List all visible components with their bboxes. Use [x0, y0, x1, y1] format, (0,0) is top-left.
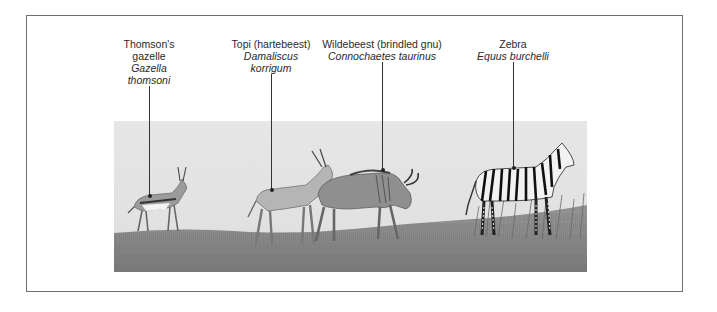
scientific-name: thomsoni [123, 74, 174, 86]
common-name: Zebra [477, 38, 549, 50]
scientific-name: korrigum [232, 62, 311, 74]
label-wildebeest: Wildebeest (brindled gnu) Connochaetes t… [322, 38, 442, 62]
scene-illustration [114, 121, 587, 272]
scientific-name: Equus burchelli [477, 50, 549, 62]
leader-line-thomsons-gazelle [149, 86, 150, 196]
thomsons-gazelle-illustration [128, 167, 187, 231]
leader-line-zebra [513, 62, 514, 168]
savanna-scene [114, 121, 587, 272]
scientific-name: Connochaetes taurinus [322, 50, 442, 62]
label-thomsons-gazelle: Thomson's gazelle Gazella thomsoni [123, 38, 174, 86]
scientific-name: Damaliscus [232, 50, 311, 62]
common-name: Wildebeest (brindled gnu) [322, 38, 442, 50]
common-name: gazelle [123, 50, 174, 62]
label-topi: Topi (hartebeest) Damaliscus korrigum [232, 38, 311, 74]
common-name: Topi (hartebeest) [232, 38, 311, 50]
scientific-name: Gazella [123, 62, 174, 74]
leader-line-wildebeest [382, 62, 383, 170]
common-name: Thomson's [123, 38, 174, 50]
leader-line-topi [271, 74, 272, 190]
label-zebra: Zebra Equus burchelli [477, 38, 549, 62]
